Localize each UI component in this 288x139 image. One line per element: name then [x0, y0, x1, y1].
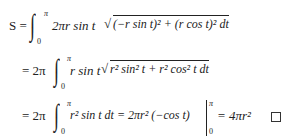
- eval-upper: π: [209, 99, 213, 108]
- integral-sign: ∫: [30, 10, 35, 40]
- upper-limit: π: [67, 54, 71, 63]
- upper-limit: π: [67, 99, 71, 108]
- eval-lower: 0: [209, 127, 213, 136]
- lower-limit: 0: [37, 37, 41, 46]
- integrand: 2πr sin t: [52, 18, 95, 34]
- radicand: (−r sin t)² + (r cos t)² dt: [113, 15, 229, 32]
- lower-limit: 0: [61, 127, 65, 136]
- integral-sign: ∫: [54, 100, 59, 130]
- sqrt-sign: √: [104, 16, 111, 32]
- upper-limit: π: [44, 9, 48, 18]
- integrand: r sin t: [70, 63, 100, 79]
- radicand: r² sin² t + r² cos² t dt: [110, 60, 209, 77]
- integrand: r² sin t dt = 2πr² (−cos t): [70, 108, 190, 123]
- lhs: S =: [9, 18, 27, 34]
- sqrt-sign: √: [101, 61, 108, 77]
- integral-sign: ∫: [54, 55, 59, 85]
- prefix: = 2π: [22, 108, 46, 124]
- qed-icon: [271, 112, 281, 122]
- result: = 4πr²: [217, 108, 251, 124]
- prefix: = 2π: [22, 63, 46, 79]
- evaluation-bar: [206, 100, 207, 136]
- lower-limit: 0: [61, 82, 65, 91]
